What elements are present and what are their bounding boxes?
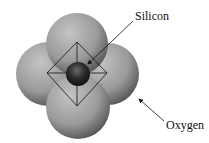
silicon-label: Silicon [135, 9, 169, 23]
oxygen-pointer-line [139, 99, 164, 121]
silicon-oxygen-tetrahedron-diagram: Silicon Oxygen [0, 0, 209, 143]
silicon-atom [66, 62, 90, 86]
oxygen-label: Oxygen [166, 118, 204, 132]
